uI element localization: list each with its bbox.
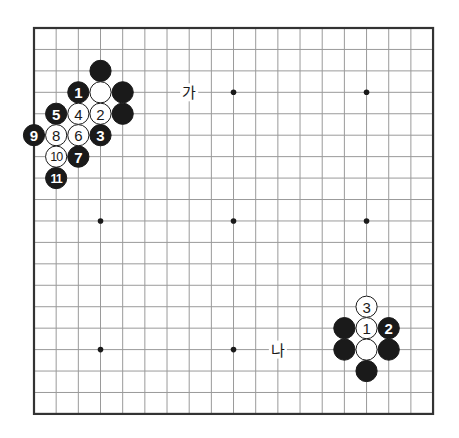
star-point xyxy=(364,90,370,96)
white-stone xyxy=(90,82,111,103)
black-stone-circle xyxy=(334,339,355,360)
star-point xyxy=(231,90,237,96)
move-number: 1 xyxy=(74,84,82,101)
black-stone: 5 xyxy=(46,103,67,124)
black-stone-circle xyxy=(378,339,399,360)
position-label: 나 xyxy=(269,341,287,360)
star-point xyxy=(231,347,237,353)
white-stone: 1 xyxy=(356,318,377,339)
black-stone-circle xyxy=(90,60,111,81)
position-label: 가 xyxy=(180,83,198,102)
move-number: 9 xyxy=(30,127,38,144)
move-number: 7 xyxy=(74,149,82,166)
black-stone xyxy=(112,103,133,124)
white-stone: 8 xyxy=(46,125,67,146)
black-stone: 7 xyxy=(68,146,89,167)
move-number: 3 xyxy=(96,127,104,144)
label-text: 가 xyxy=(182,84,196,102)
white-stone: 4 xyxy=(68,103,89,124)
black-stone xyxy=(334,339,355,360)
black-stone: 2 xyxy=(378,318,399,339)
star-point xyxy=(364,218,370,224)
black-stone: 9 xyxy=(23,125,44,146)
black-stone: 3 xyxy=(90,125,111,146)
black-stone xyxy=(90,60,111,81)
white-stone-circle xyxy=(90,82,111,103)
black-stone xyxy=(356,360,377,381)
white-stone: 3 xyxy=(356,296,377,317)
white-stone xyxy=(356,339,377,360)
move-number: 8 xyxy=(52,127,60,144)
move-number: 4 xyxy=(74,106,82,123)
black-stone-circle xyxy=(112,103,133,124)
move-number: 2 xyxy=(96,106,104,123)
black-stone xyxy=(112,82,133,103)
white-stone-circle xyxy=(356,339,377,360)
move-number: 1 xyxy=(362,320,370,337)
star-point xyxy=(98,347,104,353)
white-stone: 6 xyxy=(68,125,89,146)
black-stone: 1 xyxy=(68,82,89,103)
move-number: 2 xyxy=(385,320,393,337)
star-point xyxy=(98,218,104,224)
go-board-diagram: 가나 1542986310711312 xyxy=(0,0,459,438)
move-number: 5 xyxy=(52,106,60,123)
black-stone-circle xyxy=(334,318,355,339)
move-number: 10 xyxy=(50,150,63,164)
white-stone: 2 xyxy=(90,103,111,124)
black-stone-circle xyxy=(112,82,133,103)
black-stone xyxy=(334,318,355,339)
move-number: 3 xyxy=(362,299,370,316)
star-point xyxy=(231,218,237,224)
white-stone: 10 xyxy=(46,146,67,167)
move-number: 6 xyxy=(74,127,82,144)
label-text: 나 xyxy=(271,342,285,360)
move-number: 11 xyxy=(51,172,63,186)
black-stone-circle xyxy=(356,360,377,381)
black-stone: 11 xyxy=(46,167,67,188)
black-stone xyxy=(378,339,399,360)
